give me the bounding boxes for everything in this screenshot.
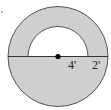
- inner-radius-label: 4': [68, 58, 76, 72]
- center-point: [55, 54, 60, 59]
- ring-width-label: 2': [92, 58, 100, 72]
- stray-mark: [1, 11, 3, 13]
- diagram-canvas: 4' 2': [0, 0, 111, 110]
